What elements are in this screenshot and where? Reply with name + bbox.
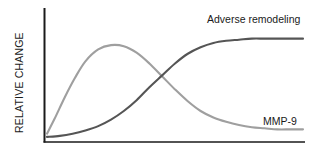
series-label-adverse-remodeling: Adverse remodeling: [207, 13, 301, 25]
series-label-mmp9: MMP-9: [263, 115, 297, 127]
relative-change-line-chart: RELATIVE CHANGE Adverse remodeling MMP-9: [0, 0, 317, 157]
y-axis-title: RELATIVE CHANGE: [13, 32, 25, 133]
chart-figure: RELATIVE CHANGE Adverse remodeling MMP-9: [0, 0, 317, 157]
